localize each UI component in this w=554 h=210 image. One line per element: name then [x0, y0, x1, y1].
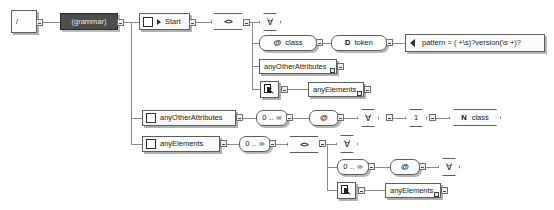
- connector-trunk-vertical: [131, 22, 132, 144]
- start-element-icon: [143, 17, 153, 27]
- ref-box-icon-2: [357, 91, 362, 96]
- node-forall-4[interactable]: ∀: [438, 158, 460, 176]
- node-ref-pointer-2[interactable]: [337, 182, 356, 199]
- socket-ref-any-other-attributes-out[interactable]: [337, 63, 344, 70]
- ref-box-icon-3: [434, 192, 439, 197]
- node-define-any-other-attributes-label: anyOtherAttributes: [160, 114, 223, 122]
- node-data-token[interactable]: D token: [331, 35, 387, 51]
- node-except-1-label: 1: [414, 114, 418, 122]
- socket-repeat-1-out[interactable]: [286, 114, 293, 121]
- connector-fan-forall1: [252, 22, 260, 23]
- socket-choice-bottom-out[interactable]: [319, 140, 326, 147]
- node-ref-any-elements-label: anyElements: [313, 86, 356, 94]
- node-choice-top[interactable]: <>: [211, 13, 245, 30]
- socket-attr-any-2-out[interactable]: [419, 163, 426, 170]
- socket-repeat-3-out[interactable]: [368, 163, 375, 170]
- connector-fan2-forall3: [327, 144, 337, 145]
- node-forall-3[interactable]: ∀: [336, 135, 358, 153]
- node-ref-any-elements-2-label: anyElements: [390, 187, 433, 195]
- socket-attr-any-1-out[interactable]: [337, 114, 344, 121]
- forall-icon-2: ∀: [365, 114, 371, 123]
- connector-refpointer2-anyelements: [364, 190, 386, 191]
- socket-ref-pointer-1-out[interactable]: [281, 86, 288, 93]
- forall-icon-4: ∀: [446, 163, 452, 172]
- connector-refpointer-anyelements: [287, 89, 309, 90]
- ref-pointer-icon: [264, 84, 275, 95]
- node-repeat-3-label: 0 .. ∞: [343, 163, 363, 171]
- diagram-canvas[interactable]: / (grammar) Start <> ∀ @ class D token p…: [0, 0, 554, 210]
- socket-except-1-out[interactable]: [429, 114, 436, 121]
- node-start[interactable]: Start: [139, 13, 190, 30]
- node-except-1[interactable]: 1: [405, 109, 427, 127]
- node-grammar-label: (grammar): [72, 18, 107, 26]
- socket-ref-any-elements-out[interactable]: [364, 86, 371, 93]
- node-forall-2[interactable]: ∀: [357, 109, 379, 127]
- socket-grammar-out[interactable]: [117, 19, 124, 26]
- node-attr-class[interactable]: @ class: [259, 35, 317, 51]
- connector-fan2-repeat3: [327, 167, 337, 168]
- node-data-token-label: token: [355, 39, 373, 47]
- nsname-icon: N: [461, 114, 466, 122]
- node-attr-any-1[interactable]: @: [309, 110, 339, 126]
- node-repeat-3[interactable]: 0 .. ∞: [337, 159, 369, 175]
- node-attr-class-label: class: [285, 39, 302, 47]
- node-attr-any-2[interactable]: @: [390, 159, 420, 175]
- node-define-any-elements[interactable]: anyElements: [142, 136, 220, 152]
- node-forall-1[interactable]: ∀: [259, 13, 281, 31]
- node-choice-bottom[interactable]: <>: [287, 136, 321, 153]
- node-start-label: Start: [165, 18, 181, 26]
- socket-ref-any-elements-2-out[interactable]: [441, 187, 448, 194]
- at-attribute-icon: @: [274, 39, 282, 47]
- node-nsname-class[interactable]: N class: [449, 109, 501, 126]
- socket-choice-top-out[interactable]: [243, 19, 250, 26]
- node-ref-any-elements-2[interactable]: anyElements: [385, 183, 441, 198]
- socket-root-out[interactable]: [36, 19, 43, 26]
- socket-start-out[interactable]: [189, 19, 196, 26]
- connector-fan2-refpointer: [327, 190, 337, 191]
- forall-icon-3: ∀: [344, 140, 350, 149]
- connector-fan-vertical-top: [252, 22, 253, 90]
- datatype-icon: D: [345, 39, 350, 47]
- socket-data-token-out[interactable]: [386, 39, 393, 46]
- node-ref-any-elements[interactable]: anyElements: [308, 82, 364, 97]
- ref-box-icon: [330, 68, 335, 73]
- node-grammar[interactable]: (grammar): [60, 13, 118, 30]
- at-attribute-icon-3: @: [401, 163, 409, 171]
- socket-ref-pointer-2-out[interactable]: [358, 187, 365, 194]
- node-ref-pointer-1[interactable]: [260, 81, 279, 98]
- socket-attr-class-out[interactable]: [316, 39, 323, 46]
- node-repeat-1-label: 0 .. ∞: [262, 114, 282, 122]
- node-ref-any-other-attributes[interactable]: anyOtherAttributes: [259, 59, 337, 74]
- node-repeat-2[interactable]: 0 .. ∞: [239, 136, 271, 152]
- ref-pointer-icon-2: [341, 185, 352, 196]
- node-nsname-class-label: class: [472, 114, 489, 122]
- element-angle-icon-2: <>: [300, 141, 307, 149]
- facet-arrow-icon: [410, 39, 415, 47]
- node-define-any-other-attributes[interactable]: anyOtherAttributes: [142, 110, 236, 126]
- node-ref-any-other-attributes-label: anyOtherAttributes: [264, 63, 327, 71]
- start-arrow-icon: [157, 19, 161, 25]
- node-root[interactable]: /: [11, 10, 37, 33]
- node-repeat-2-label: 0 .. ∞: [245, 140, 265, 148]
- socket-repeat-2-out[interactable]: [269, 140, 276, 147]
- socket-define-any-elements-out[interactable]: [220, 140, 227, 147]
- define-square-icon-2: [146, 139, 156, 149]
- node-repeat-1[interactable]: 0 .. ∞: [256, 110, 288, 126]
- at-attribute-icon-2: @: [320, 114, 328, 122]
- socket-forall-2-out[interactable]: [386, 114, 393, 121]
- node-pattern-facet[interactable]: pattern = ( +\s)?version(\s +)?: [405, 34, 545, 52]
- connector-fan-refpointer: [252, 89, 260, 90]
- socket-define-any-other-attributes-out[interactable]: [236, 114, 243, 121]
- node-pattern-facet-label: pattern = ( +\s)?version(\s +)?: [422, 39, 521, 47]
- node-define-any-elements-label: anyElements: [160, 140, 203, 148]
- define-square-icon: [146, 113, 156, 123]
- node-root-label: /: [16, 18, 18, 26]
- element-angle-icon: <>: [224, 18, 231, 26]
- forall-icon: ∀: [267, 18, 273, 27]
